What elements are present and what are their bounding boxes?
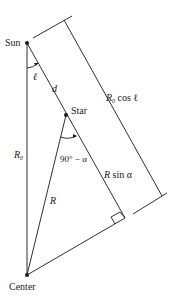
label-rcos: R0 cos ℓ xyxy=(106,93,138,104)
label-rsin: R sin α xyxy=(104,170,132,180)
label-d: d xyxy=(52,84,57,94)
center-point xyxy=(25,273,29,277)
label-center: Center xyxy=(9,282,36,292)
label-sun: Sun xyxy=(5,38,21,48)
line-sun-foot xyxy=(27,43,125,218)
dimension-tick-top xyxy=(33,16,72,38)
label-angle: 90° − α xyxy=(60,155,87,164)
galactic-geometry-diagram xyxy=(0,0,178,298)
label-r: R xyxy=(50,196,56,206)
label-r0: R0 xyxy=(14,150,23,161)
line-center-foot xyxy=(27,218,125,275)
star-point xyxy=(64,113,68,117)
label-star: Star xyxy=(71,106,87,116)
arrowhead-star xyxy=(73,134,77,138)
line-star-center xyxy=(27,115,66,275)
label-ell: ℓ xyxy=(33,72,37,82)
dimension-tick-bottom xyxy=(133,193,167,214)
sun-point xyxy=(25,41,29,45)
